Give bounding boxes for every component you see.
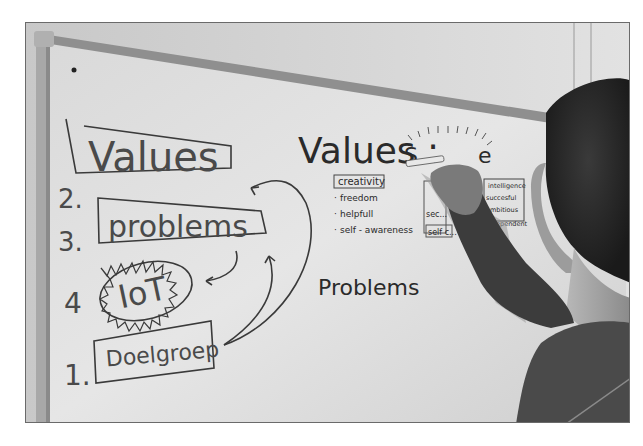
- step-number-3: 3.: [58, 227, 83, 257]
- value-item-helpfull: helpfull: [340, 209, 373, 219]
- whiteboard-scene: 2. Values 3. problems 4 IoT 1. Doelgroep…: [26, 23, 630, 423]
- svg-text:·: ·: [334, 209, 337, 219]
- value-item-freedom: ·: [334, 193, 337, 203]
- right-item-intelligence: intelligence: [488, 182, 526, 190]
- step-number-4: 4: [64, 287, 82, 320]
- step-label-values: Values: [88, 134, 219, 180]
- middle-item-4: self c...: [428, 228, 457, 237]
- step-number-1: 1.: [64, 359, 91, 392]
- right-item-succesful: succesful: [486, 194, 516, 202]
- partial-word-end: e: [478, 143, 492, 168]
- value-item-creativity: creativity: [338, 176, 385, 187]
- step-label-problems: problems: [108, 209, 248, 244]
- problems-heading: Problems: [318, 275, 419, 300]
- magnet-dot: [72, 68, 77, 73]
- value-item-freedom-label: freedom: [340, 193, 378, 203]
- whiteboard-photo: 2. Values 3. problems 4 IoT 1. Doelgroep…: [25, 22, 630, 423]
- value-item-self-awareness: self - awareness: [340, 225, 413, 235]
- svg-text:·: ·: [334, 225, 337, 235]
- middle-item-2: sec...: [426, 210, 447, 219]
- step-number-2: 2.: [58, 184, 83, 214]
